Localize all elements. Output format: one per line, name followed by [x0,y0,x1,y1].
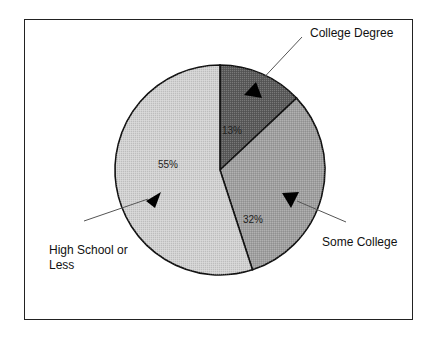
pct-label-high-school-or-less: 55% [158,159,178,170]
callout-line-college-degree [256,37,302,86]
pie-chart: 13%32%55% College DegreeSome CollegeHigh… [0,0,435,340]
callout-label-some-college: Some College [322,235,398,249]
pct-label-some-college: 32% [243,214,263,225]
pct-label-college-degree: 13% [222,125,242,136]
callout-label-high-school-or-less: High School or [49,243,128,257]
callout-label-college-degree: College Degree [310,26,394,40]
callout-label-high-school-or-less: Less [49,258,74,272]
